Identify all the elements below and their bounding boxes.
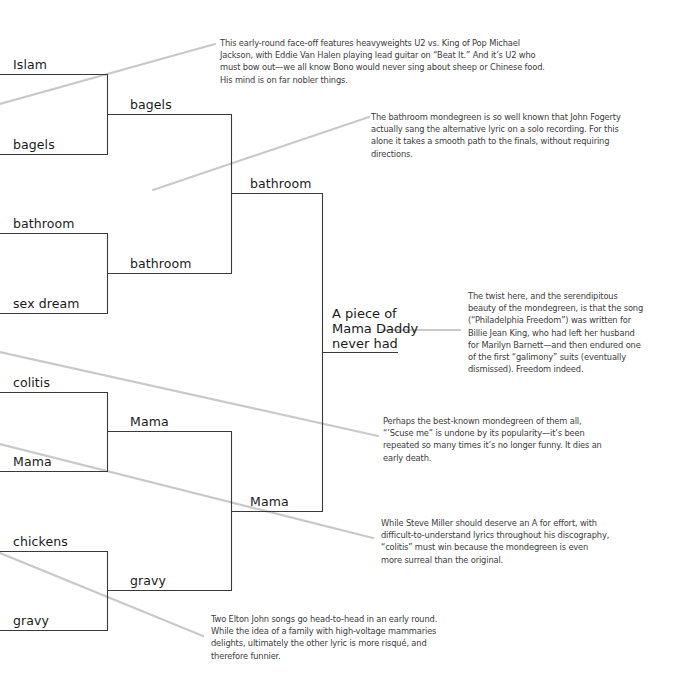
champion-line-2: Mama Daddy	[332, 321, 418, 336]
entry-round3-2: Mama	[250, 495, 289, 509]
entry-round1-5: colitis	[13, 376, 50, 390]
annotation-steve-miller: While Steve Miller should deserve an A f…	[381, 517, 611, 566]
entry-round3-1: bathroom	[250, 177, 312, 191]
champion-line-1: A piece of	[332, 306, 418, 321]
entry-round2-4: gravy	[130, 574, 166, 588]
annotation-u2-vs-jackson: This early-round face-off features heavy…	[220, 37, 546, 86]
entry-round1-1: Islam	[13, 58, 47, 72]
connector-scuse-me	[0, 352, 378, 436]
annotation-elton-john: Two Elton John songs go head-to-head in …	[211, 613, 456, 662]
entry-round1-2: bagels	[13, 138, 55, 152]
entry-round2-2: bathroom	[130, 257, 192, 271]
entry-round2-3: Mama	[130, 415, 169, 429]
entry-round2-1: bagels	[130, 98, 172, 112]
connector-steve-miller	[0, 444, 373, 538]
annotation-scuse-me: Perhaps the best-known mondegreen of the…	[383, 415, 603, 464]
entry-round1-4: sex dream	[13, 297, 80, 311]
annotation-philadelphia-freedom: The twist here, and the serendipitous be…	[468, 290, 646, 375]
entry-round1-6: Mama	[13, 455, 52, 469]
entry-round1-3: bathroom	[13, 217, 75, 231]
champion-label: A piece of Mama Daddy never had	[332, 306, 418, 351]
entry-round1-8: gravy	[13, 614, 49, 628]
champion-line-3: never had	[332, 336, 418, 351]
annotation-bathroom-fogerty: The bathroom mondegreen is so well known…	[371, 111, 643, 160]
entry-round1-7: chickens	[13, 535, 68, 549]
